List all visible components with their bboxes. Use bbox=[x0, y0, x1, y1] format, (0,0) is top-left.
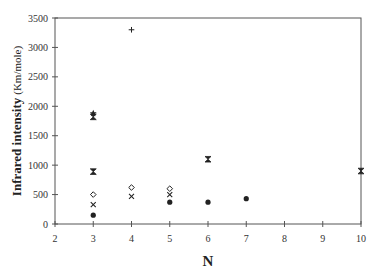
x-tick-label: 5 bbox=[167, 233, 172, 244]
hourglass-marker bbox=[205, 156, 211, 162]
x-tick-label: 7 bbox=[244, 233, 249, 244]
plus-marker bbox=[129, 27, 135, 33]
y-tick-label: 500 bbox=[33, 189, 48, 200]
x-marker bbox=[129, 194, 134, 199]
y-tick-label: 2500 bbox=[28, 71, 48, 82]
open-diamond-marker bbox=[129, 185, 135, 191]
y-tick-label: 0 bbox=[43, 219, 48, 230]
y-tick-label: 3500 bbox=[28, 13, 48, 24]
scatter-chart: 0500100015002000250030003500 2345678910 … bbox=[0, 0, 378, 276]
y-axis-title-unit: (Km/mole) bbox=[11, 46, 24, 95]
x-tick-label: 2 bbox=[53, 233, 58, 244]
y-tick-label: 1500 bbox=[28, 130, 48, 141]
y-tick-label: 2000 bbox=[28, 101, 48, 112]
x-tick-label: 10 bbox=[356, 233, 366, 244]
filled-circle-marker bbox=[244, 196, 249, 201]
x-tick-label: 3 bbox=[91, 233, 96, 244]
x-tick-label: 4 bbox=[129, 233, 134, 244]
filled-circle-marker bbox=[91, 213, 96, 218]
filled-circle-marker bbox=[205, 200, 210, 205]
y-tick-label: 3000 bbox=[28, 42, 48, 53]
x-tick-label: 9 bbox=[320, 233, 325, 244]
filled-circle-marker bbox=[167, 200, 172, 205]
x-tick-label: 6 bbox=[206, 233, 211, 244]
x-marker bbox=[91, 202, 96, 207]
plot-border bbox=[55, 18, 361, 224]
x-axis-title: N bbox=[203, 253, 214, 269]
open-diamond-marker bbox=[90, 192, 96, 198]
hourglass-marker bbox=[358, 168, 364, 174]
data-points bbox=[90, 27, 364, 218]
y-axis-title-main: Infrared intensity bbox=[9, 97, 24, 196]
plot-frame bbox=[55, 18, 361, 224]
x-tick-label: 8 bbox=[282, 233, 287, 244]
hourglass-marker bbox=[90, 169, 96, 175]
y-axis-ticks: 0500100015002000250030003500 bbox=[28, 13, 58, 230]
y-tick-label: 1000 bbox=[28, 160, 48, 171]
y-axis-title: Infrared intensity(Km/mole) bbox=[9, 46, 24, 197]
x-marker bbox=[167, 192, 172, 197]
open-diamond-marker bbox=[167, 186, 173, 192]
